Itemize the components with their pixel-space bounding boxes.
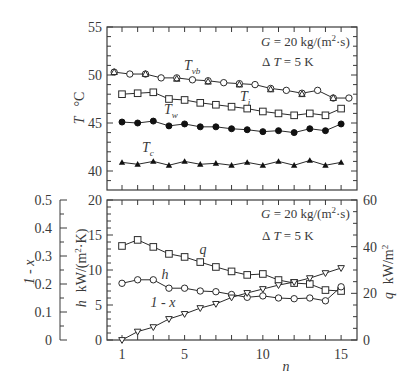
label-t-w: Tw — [164, 102, 178, 120]
q-marker — [213, 264, 220, 271]
top-y-axis-title: T°C — [72, 92, 87, 125]
t-i-marker — [275, 110, 282, 117]
h-tick-label: 0 — [95, 333, 102, 348]
t-c-marker — [181, 158, 187, 164]
q-tick-label: 40 — [363, 240, 377, 255]
chart: 40455055TvbTiTwTc 05101520020406000.10.2… — [0, 0, 412, 392]
h-marker — [134, 277, 140, 283]
q-tick-label: 60 — [363, 193, 377, 208]
t-c-marker — [307, 157, 313, 163]
t-i-marker — [213, 101, 220, 108]
q-tick-label: 0 — [363, 333, 370, 348]
h-marker — [338, 284, 344, 290]
t-i-marker — [260, 108, 267, 115]
t-i-marker — [134, 90, 141, 97]
svg-text:qkW/m2: qkW/m2 — [380, 245, 396, 300]
h-marker — [322, 298, 328, 304]
h-tick-label: 15 — [88, 228, 102, 243]
top-annotation: G = 20 kg/(m2·s) ΔT = 5 K — [261, 33, 350, 69]
t-i-marker — [150, 89, 157, 96]
t-c-marker — [150, 158, 156, 164]
svg-text:1 - x: 1 - x — [22, 259, 37, 285]
q-marker — [322, 287, 329, 294]
q-tick-label: 20 — [363, 286, 377, 301]
1x-tick-label: 0.5 — [35, 193, 53, 208]
h-marker — [150, 277, 156, 283]
x-tick-label: 5 — [181, 347, 188, 362]
t-w-marker — [276, 128, 282, 134]
x-tick-label: 15 — [334, 347, 348, 362]
y-tick-label: 45 — [88, 116, 102, 131]
t-w-marker — [166, 123, 172, 129]
bottom-h-axis-title: hkW/(m2·K) — [73, 228, 90, 307]
t-c-marker — [244, 159, 250, 165]
t-w-marker — [213, 124, 219, 130]
t-i-marker — [181, 97, 188, 104]
t-w-marker — [150, 118, 156, 124]
q-marker — [197, 259, 204, 266]
t-vb-marker — [127, 71, 133, 77]
t-vb-marker — [221, 79, 227, 85]
h-marker — [275, 295, 281, 301]
t-w-marker — [322, 128, 328, 134]
t-i-marker — [119, 91, 126, 98]
t-w-marker — [244, 127, 250, 133]
h-tick-label: 20 — [88, 193, 102, 208]
label-t-vb: Tvb — [184, 58, 201, 76]
h-marker — [166, 285, 172, 291]
t-w-marker — [119, 119, 125, 125]
1x-tick-label: 0.3 — [35, 249, 53, 264]
q-marker — [119, 243, 126, 250]
h-marker — [197, 288, 203, 294]
svg-text:ΔT = 5 K: ΔT = 5 K — [262, 228, 314, 243]
q-marker — [228, 268, 235, 275]
x-tick-label: 10 — [256, 347, 270, 362]
1-x-marker — [166, 317, 173, 323]
h-tick-label: 5 — [95, 298, 102, 313]
t-vb-line — [114, 72, 349, 98]
t-i-series — [119, 89, 345, 119]
label-q: q — [200, 242, 207, 257]
t-vb-marker — [189, 77, 195, 83]
y-title-unit: °C — [72, 92, 87, 107]
bottom-1x-axis-title: 1 - x — [22, 259, 37, 285]
y-tick-label: 50 — [88, 68, 102, 83]
q-series — [119, 237, 345, 295]
h-marker — [307, 295, 313, 301]
label-t-c: Tc — [142, 140, 154, 158]
t-c-marker — [213, 160, 219, 166]
q-marker — [150, 244, 157, 251]
t-vb-marker — [252, 81, 258, 87]
h-marker — [291, 296, 297, 302]
q-marker — [166, 251, 173, 258]
t-w-marker — [260, 129, 266, 135]
t-c-marker — [338, 159, 344, 165]
t-c-marker — [119, 159, 125, 165]
h-marker — [260, 293, 266, 299]
bottom-q-axis-title: qkW/m2 — [380, 245, 396, 300]
y-title-T: T — [72, 115, 87, 124]
y-tick-label: 55 — [88, 20, 102, 35]
1x-tick-label: 0 — [45, 333, 52, 348]
h-marker — [119, 280, 125, 286]
svg-text:ΔT = 5 K: ΔT = 5 K — [262, 54, 314, 69]
t-i-marker — [338, 105, 345, 112]
t-c-series — [119, 157, 344, 167]
y-tick-label: 40 — [88, 164, 102, 179]
label-t-i: Ti — [240, 89, 251, 107]
t-w-marker — [291, 130, 297, 136]
q-marker — [260, 271, 267, 278]
1x-tick-label: 0.1 — [35, 305, 53, 320]
t-vb-marker — [283, 87, 289, 93]
label-h: h — [162, 267, 169, 282]
h-tick-label: 10 — [88, 263, 102, 278]
1x-tick-label: 0.4 — [35, 221, 53, 236]
q-marker — [244, 272, 251, 279]
t-w-series — [119, 118, 344, 136]
label-1x: 1 - x — [151, 295, 177, 310]
t-i-marker — [307, 110, 314, 117]
svg-text:T°C: T°C — [72, 92, 87, 125]
t-vb-marker — [314, 87, 320, 93]
x-tick-label: 1 — [119, 347, 126, 362]
svg-text:hkW/(m2·K): hkW/(m2·K) — [73, 228, 90, 307]
